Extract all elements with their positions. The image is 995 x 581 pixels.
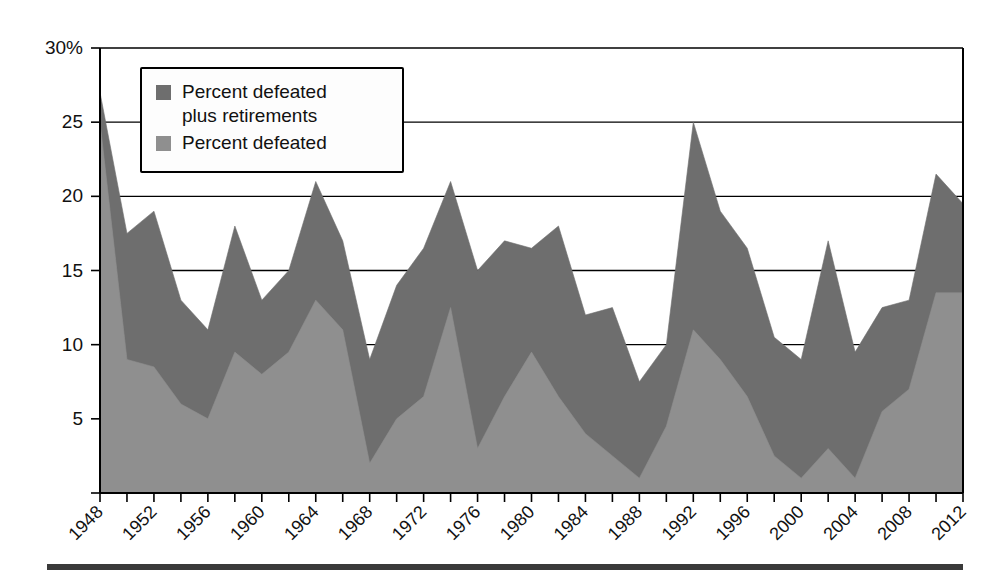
y-tick-label-20: 20 bbox=[62, 185, 83, 206]
y-tick-label-30: 30% bbox=[45, 37, 83, 58]
y-tick-label-25: 25 bbox=[62, 111, 83, 132]
bottom-divider-rule bbox=[47, 564, 963, 570]
chart-legend: Percent defeated plus retirements Percen… bbox=[141, 68, 403, 172]
chart-figure: 51015202530% 194819521956196019641968197… bbox=[0, 0, 995, 581]
y-tick-label-10: 10 bbox=[62, 334, 83, 355]
area-chart: 51015202530% 194819521956196019641968197… bbox=[0, 0, 995, 581]
legend-label-defeated-plus-retirements-line2: plus retirements bbox=[182, 105, 317, 126]
legend-label-defeated-plus-retirements-line1: Percent defeated bbox=[182, 81, 327, 102]
y-tick-label-5: 5 bbox=[72, 408, 83, 429]
legend-swatch-defeated-plus-retirements bbox=[156, 85, 171, 100]
y-tick-label-15: 15 bbox=[62, 260, 83, 281]
legend-swatch-defeated bbox=[156, 136, 171, 151]
legend-label-defeated: Percent defeated bbox=[182, 132, 327, 153]
